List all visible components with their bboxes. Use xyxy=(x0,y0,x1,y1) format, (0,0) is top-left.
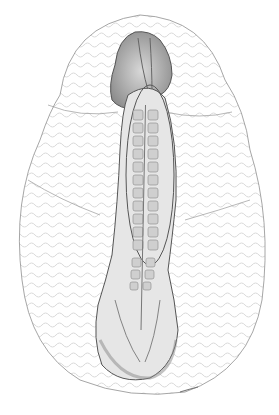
illustration-canvas xyxy=(0,0,279,415)
embryo-illustration xyxy=(0,0,279,415)
